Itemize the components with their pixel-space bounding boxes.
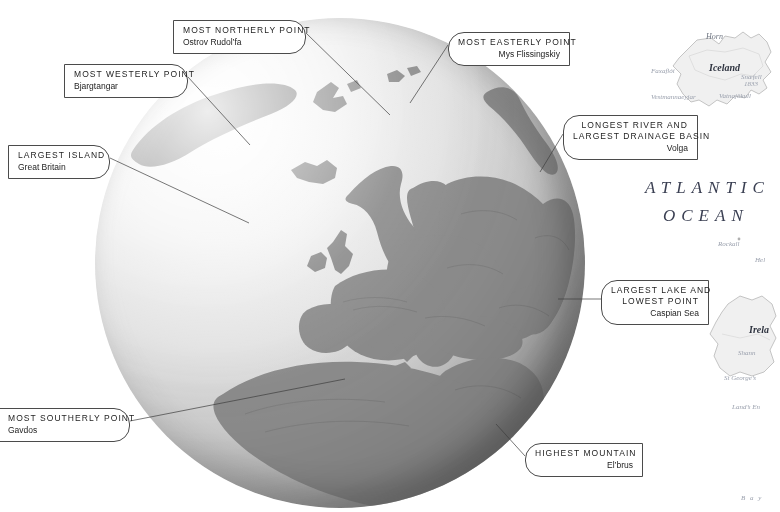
callout-largest-lake-and-lowest-point[interactable]: LARGEST LAKE AND LOWEST POINT Caspian Se… xyxy=(601,280,709,325)
callout-value: Caspian Sea xyxy=(611,308,699,319)
callout-value: Ostrov Rudol’fa xyxy=(183,37,296,48)
callout-value: Mys Flissingskiy xyxy=(458,49,560,60)
callout-most-northerly-point[interactable]: MOST NORTHERLY POINT Ostrov Rudol’fa xyxy=(173,20,306,54)
leader-most-southerly-point xyxy=(130,379,345,421)
callout-title: LARGEST ISLAND xyxy=(18,150,100,161)
callout-value: Gavdos xyxy=(8,425,120,436)
callout-longest-river-and-largest-drainage-basin[interactable]: LONGEST RIVER AND LARGEST DRAINAGE BASIN… xyxy=(563,115,698,160)
callout-value: El’brus xyxy=(535,460,633,471)
leader-most-westerly-point xyxy=(188,77,250,145)
callout-most-easterly-point[interactable]: MOST EASTERLY POINT Mys Flissingskiy xyxy=(448,32,570,66)
callout-value: Bjargtangar xyxy=(74,81,178,92)
callout-title: MOST WESTERLY POINT xyxy=(74,69,178,80)
callout-title: LARGEST LAKE AND xyxy=(611,285,699,296)
callout-most-southerly-point[interactable]: MOST SOUTHERLY POINT Gavdos xyxy=(0,408,130,442)
callout-title: MOST SOUTHERLY POINT xyxy=(8,413,120,424)
leader-largest-island xyxy=(110,158,249,223)
callout-title: HIGHEST MOUNTAIN xyxy=(535,448,633,459)
callout-title-line2: LARGEST DRAINAGE BASIN xyxy=(573,131,688,142)
callout-title: MOST NORTHERLY POINT xyxy=(183,25,296,36)
leader-highest-mountain xyxy=(496,424,525,456)
leader-most-northerly-point xyxy=(306,33,390,115)
leader-most-easterly-point xyxy=(410,45,448,103)
callout-largest-island[interactable]: LARGEST ISLAND Great Britain xyxy=(8,145,110,179)
callout-value: Great Britain xyxy=(18,162,100,173)
callout-title: MOST EASTERLY POINT xyxy=(458,37,560,48)
callout-most-westerly-point[interactable]: MOST WESTERLY POINT Bjargtangar xyxy=(64,64,188,98)
callout-value: Volga xyxy=(573,143,688,154)
callout-highest-mountain[interactable]: HIGHEST MOUNTAIN El’brus xyxy=(525,443,643,477)
leader-longest-river xyxy=(540,134,563,172)
callout-title-line2: LOWEST POINT xyxy=(611,296,699,307)
callout-title: LONGEST RIVER AND xyxy=(573,120,688,131)
